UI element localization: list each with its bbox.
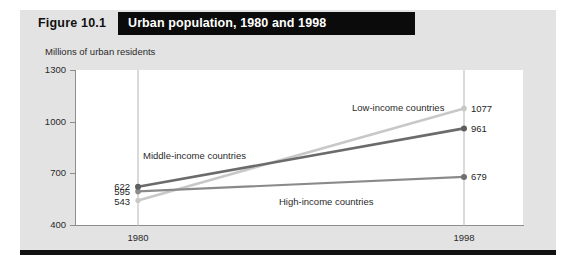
value-label-low-income-1998: 1077 xyxy=(471,103,492,114)
series-label-middle-income: Middle-income countries xyxy=(143,150,246,161)
marker-middle-income-1980 xyxy=(135,184,141,190)
chart-plot-wrapper: 1300 1000 700 400 Low-income countries M xyxy=(20,10,556,255)
figure-card: Figure 10.1 Urban population, 1980 and 1… xyxy=(20,10,556,255)
series-label-high-income: High-income countries xyxy=(279,196,374,207)
value-label-high-income-1998: 679 xyxy=(471,171,487,182)
x-tick-label-1998: 1998 xyxy=(444,232,484,243)
marker-low-income-1980 xyxy=(135,198,140,203)
figure-bottom-rule xyxy=(20,250,556,255)
marker-low-income-1998 xyxy=(461,106,467,112)
marker-middle-income-1998 xyxy=(461,125,467,131)
series-label-low-income: Low-income countries xyxy=(352,102,444,113)
value-label-middle-income-1998: 961 xyxy=(471,123,487,134)
x-tick-label-1980: 1980 xyxy=(118,232,158,243)
value-label-low-income-1980: 543 xyxy=(96,196,130,207)
marker-high-income-1998 xyxy=(461,174,467,180)
